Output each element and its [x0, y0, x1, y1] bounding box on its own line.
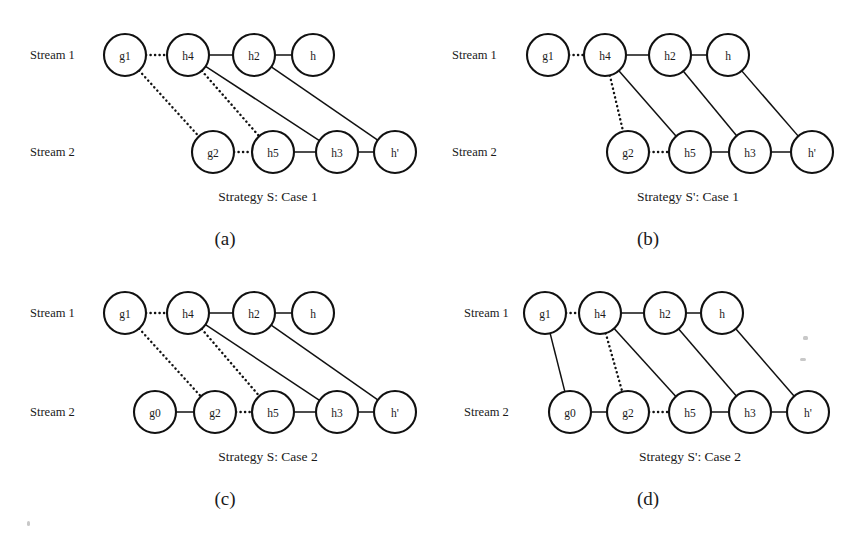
edge-h4-h5: [614, 329, 676, 397]
node-h5[interactable]: h5: [669, 131, 711, 173]
panel-letter: (b): [637, 228, 659, 250]
panel-d: g1h4h2hg0g2h5h3h'Stream 1Stream 2Strateg…: [464, 292, 829, 510]
node-g1[interactable]: g1: [104, 292, 146, 334]
edge-h2-h': [271, 325, 378, 400]
node-label: h': [391, 147, 399, 159]
edge-h4-g2: [610, 75, 623, 131]
stream-1-label: Stream 1: [30, 48, 75, 62]
edge-g1-g0: [550, 333, 565, 391]
node-h3[interactable]: h3: [729, 131, 771, 173]
node-h2[interactable]: h2: [233, 292, 275, 334]
edge-h-h': [742, 71, 799, 136]
node-label: h': [804, 407, 812, 419]
node-h[interactable]: h: [292, 34, 334, 76]
node-label: h4: [182, 308, 194, 320]
node-h'[interactable]: h': [791, 131, 833, 173]
node-g1[interactable]: g1: [527, 34, 569, 76]
edge-h2-h3: [679, 329, 737, 396]
node-h[interactable]: h: [292, 292, 334, 334]
node-h4[interactable]: h4: [167, 34, 209, 76]
panel-letter: (c): [214, 488, 235, 510]
panel-c: g1h4h2hg0g2h5h3h'Stream 1Stream 2Strateg…: [30, 292, 416, 510]
node-label: h2: [248, 308, 260, 320]
panel-caption: Strategy S: Case 2: [218, 449, 317, 464]
scan-speck: [800, 358, 806, 361]
edge-h2-h': [271, 67, 377, 140]
node-h5[interactable]: h5: [669, 391, 711, 433]
node-h3[interactable]: h3: [729, 391, 771, 433]
node-h5[interactable]: h5: [252, 391, 294, 433]
node-label: g1: [119, 308, 131, 321]
node-h2[interactable]: h2: [233, 34, 275, 76]
stream-2-label: Stream 2: [452, 145, 497, 159]
stream-1-label: Stream 1: [452, 48, 497, 62]
node-h'[interactable]: h': [374, 391, 416, 433]
panel-b: g1h4h2hg2h5h3h'Stream 1Stream 2Strategy …: [452, 34, 833, 250]
edge-g1-g2: [139, 71, 199, 137]
node-label: h2: [664, 50, 676, 62]
panel-a: g1h4h2hg2h5h3h'Stream 1Stream 2Strategy …: [30, 34, 416, 250]
panel-caption: Strategy S: Case 1: [218, 189, 317, 204]
node-h2[interactable]: h2: [644, 292, 686, 334]
node-g2[interactable]: g2: [607, 391, 649, 433]
node-h'[interactable]: h': [787, 391, 829, 433]
node-h3[interactable]: h3: [316, 131, 358, 173]
node-label: h4: [599, 50, 611, 62]
node-g1[interactable]: g1: [104, 34, 146, 76]
node-label: h: [310, 50, 316, 62]
node-h4[interactable]: h4: [167, 292, 209, 334]
panel-caption: Strategy S': Case 2: [639, 449, 741, 464]
node-label: h5: [684, 147, 696, 159]
node-label: h': [808, 147, 816, 159]
node-label: g0: [564, 407, 576, 420]
node-h4[interactable]: h4: [579, 292, 621, 334]
node-h2[interactable]: h2: [649, 34, 691, 76]
stream-2-label: Stream 2: [464, 405, 509, 419]
scan-speck: [27, 521, 30, 526]
scan-speck: [803, 336, 808, 340]
stream-1-label: Stream 1: [30, 306, 75, 320]
node-label: g2: [209, 407, 221, 420]
node-g0[interactable]: g0: [549, 391, 591, 433]
node-label: g0: [149, 407, 161, 420]
node-label: h5: [267, 147, 279, 159]
node-g2[interactable]: g2: [192, 131, 234, 173]
node-g2[interactable]: g2: [194, 391, 236, 433]
panel-letter: (a): [214, 228, 235, 250]
edge-h4-h3: [205, 325, 319, 401]
node-label: h3: [331, 147, 343, 159]
node-label: h4: [594, 308, 606, 320]
stream-1-label: Stream 1: [464, 306, 509, 320]
node-h'[interactable]: h': [374, 131, 416, 173]
edge-h-h': [736, 329, 794, 396]
node-label: h5: [684, 407, 696, 419]
node-label: h: [310, 308, 316, 320]
node-h5[interactable]: h5: [252, 131, 294, 173]
node-h[interactable]: h: [707, 34, 749, 76]
node-label: h3: [744, 147, 756, 159]
node-label: g1: [539, 308, 551, 321]
node-h3[interactable]: h3: [316, 391, 358, 433]
node-h4[interactable]: h4: [584, 34, 626, 76]
node-g0[interactable]: g0: [134, 391, 176, 433]
edge-h4-h5: [619, 71, 676, 136]
edge-h4-h5: [202, 71, 259, 136]
figure-root: g1h4h2hg2h5h3h'Stream 1Stream 2Strategy …: [0, 0, 854, 538]
node-label: h5: [267, 407, 279, 419]
node-label: h3: [331, 407, 343, 419]
edge-g1-g2: [139, 329, 201, 397]
node-g1[interactable]: g1: [524, 292, 566, 334]
node-label: g2: [622, 407, 634, 420]
stream-2-label: Stream 2: [30, 145, 75, 159]
node-label: g2: [207, 147, 219, 160]
edge-h4-g2: [606, 333, 623, 392]
edge-h4-h5: [202, 329, 260, 396]
node-label: h: [719, 308, 725, 320]
stream-2-label: Stream 2: [30, 405, 75, 419]
edge-h2-h3: [683, 71, 736, 136]
panel-letter: (d): [637, 488, 659, 510]
node-label: g1: [542, 50, 554, 63]
node-h[interactable]: h: [701, 292, 743, 334]
node-g2[interactable]: g2: [607, 131, 649, 173]
node-label: h: [725, 50, 731, 62]
